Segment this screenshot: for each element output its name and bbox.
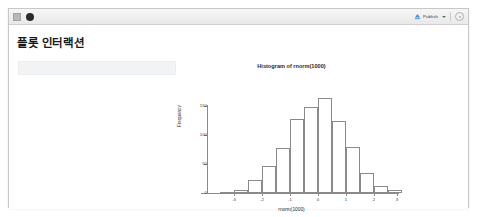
histogram-bar[interactable]: [374, 186, 388, 193]
x-tick-label-6: 3: [396, 198, 398, 202]
x-tick-5: [374, 193, 375, 196]
y-tick-label-3: 150: [200, 104, 207, 108]
publish-icon: [414, 13, 421, 20]
histogram-bar[interactable]: [360, 173, 374, 193]
x-tick-label-1: -2: [260, 198, 264, 202]
y-tick-label-0: 0: [205, 191, 207, 195]
histogram-bar[interactable]: [220, 192, 234, 194]
x-axis-title: rnorm(1000): [179, 207, 404, 212]
app-body: 플롯 인터랙션 Histogram of rnorm(1000) 0 50 10…: [9, 25, 468, 209]
histogram-bar[interactable]: [234, 190, 248, 193]
app-window: Publish 플롯 인터랙션 Histogram of rnorm(1000)…: [8, 8, 469, 208]
run-document-icon[interactable]: [13, 13, 21, 21]
histogram-bar[interactable]: [332, 121, 346, 194]
histogram-bar[interactable]: [388, 190, 402, 193]
publish-label: Publish: [423, 14, 438, 19]
toolbar-left-group: [13, 9, 34, 24]
x-tick-label-2: -1: [288, 198, 292, 202]
histogram-bar[interactable]: [318, 98, 332, 193]
toolbar-right-group: Publish: [414, 9, 464, 24]
x-tick-4: [346, 193, 347, 196]
y-tick-label-1: 50: [202, 162, 207, 166]
histogram-bar[interactable]: [248, 180, 262, 193]
histogram-bar[interactable]: [276, 148, 290, 193]
page-title: 플롯 인터랙션: [17, 34, 85, 50]
placeholder-panel[interactable]: [18, 61, 176, 75]
y-tick-label-2: 100: [200, 133, 207, 137]
x-tick-label-4: 1: [345, 198, 347, 202]
toolbar: Publish: [9, 9, 468, 25]
x-tick-6: [397, 193, 398, 196]
histogram-bar[interactable]: [290, 119, 304, 193]
x-tick-label-0: -3: [232, 198, 236, 202]
x-tick-label-3: 0: [317, 198, 319, 202]
plot-canvas[interactable]: 0 50 100 150 -3 -2 -1 0 1 2: [179, 63, 404, 195]
y-axis-title: Frequency: [177, 105, 182, 127]
y-axis-line: [207, 105, 208, 193]
toolbar-divider: [450, 12, 451, 21]
histogram-bar[interactable]: [346, 147, 360, 193]
x-tick-3: [318, 193, 319, 196]
gear-icon[interactable]: [455, 12, 464, 21]
x-tick-label-5: 2: [373, 198, 375, 202]
stop-circle-icon[interactable]: [26, 13, 34, 21]
x-tick-1: [262, 193, 263, 196]
chevron-down-icon[interactable]: [442, 16, 446, 18]
x-tick-2: [290, 193, 291, 196]
publish-button[interactable]: Publish: [414, 13, 438, 20]
histogram-bar[interactable]: [304, 107, 318, 193]
histogram-bar[interactable]: [262, 166, 276, 193]
x-tick-0: [234, 193, 235, 196]
histogram-plot: Histogram of rnorm(1000) 0 50 100 150 -3: [179, 63, 404, 195]
